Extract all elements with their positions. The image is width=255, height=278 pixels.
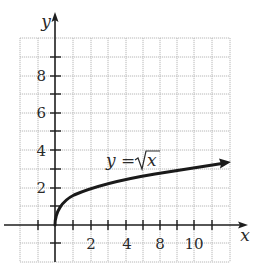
sqrt-curve [55,164,222,226]
sqrt-function-graph: 2 4 8 10 2 4 6 8 x y y = x [0,0,255,278]
axes [4,20,240,262]
x-tick-label: 8 [155,235,165,253]
x-axis-label: x [240,225,250,245]
y-axis-label: y [40,11,51,31]
x-tick-label: 4 [122,235,132,253]
equation-y: y [105,150,116,170]
equation-x: x [147,150,157,170]
y-tick-label: 6 [36,104,46,122]
x-tick-label: 10 [184,235,203,253]
x-tick-label: 2 [86,235,96,253]
equation-label: y = x [105,150,160,170]
y-tick-label: 4 [36,142,46,160]
y-tick-label: 8 [36,67,46,85]
equation-equals: = [121,150,135,170]
y-tick-label: 2 [36,179,46,197]
